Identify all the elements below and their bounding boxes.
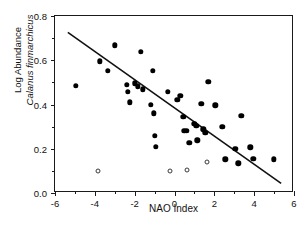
x-tick-minor bbox=[155, 191, 156, 194]
data-point-open bbox=[205, 160, 210, 165]
x-tick bbox=[55, 191, 56, 196]
data-point-filled bbox=[206, 79, 211, 84]
x-tick bbox=[254, 191, 255, 196]
x-tick-minor bbox=[115, 191, 116, 194]
data-point-filled bbox=[175, 97, 180, 102]
x-tick bbox=[95, 191, 96, 196]
figure-scatter-nao-calanus: Log Abundance Calanus finmarchicus 0.00.… bbox=[0, 0, 308, 234]
x-tick bbox=[135, 191, 136, 196]
x-tick bbox=[294, 191, 295, 196]
x-axis-title: NAO Index bbox=[54, 203, 293, 214]
data-point-filled bbox=[127, 100, 132, 105]
y-tick-label: 0.6 bbox=[34, 55, 47, 66]
data-point-filled bbox=[199, 101, 204, 106]
plot-area: 0.00.20.40.60.8 -6-4-20246 bbox=[54, 15, 293, 192]
data-point-filled bbox=[184, 128, 189, 133]
x-tick bbox=[175, 191, 176, 196]
data-point-filled bbox=[220, 124, 225, 129]
data-point-filled bbox=[203, 130, 208, 135]
x-tick bbox=[214, 191, 215, 196]
data-point-filled bbox=[150, 68, 155, 73]
data-point-filled bbox=[140, 87, 145, 92]
data-point-filled bbox=[153, 144, 158, 149]
data-point-filled bbox=[271, 157, 276, 162]
data-point-filled bbox=[151, 111, 156, 116]
data-point-filled bbox=[236, 160, 241, 165]
data-point-filled bbox=[247, 145, 252, 150]
data-point-filled bbox=[239, 113, 244, 118]
data-point-filled bbox=[112, 43, 117, 48]
data-point-filled bbox=[125, 89, 130, 94]
data-point-filled bbox=[73, 83, 78, 88]
data-point-filled bbox=[233, 146, 238, 151]
data-point-filled bbox=[213, 103, 218, 108]
data-point-filled bbox=[148, 102, 153, 107]
data-point-filled bbox=[105, 68, 110, 73]
y-axis-title-line1: Log Abundance bbox=[12, 27, 23, 93]
y-axis-title: Log Abundance Calanus finmarchicus bbox=[12, 0, 36, 120]
data-points bbox=[55, 16, 292, 191]
data-point-filled bbox=[195, 138, 200, 143]
data-point-open bbox=[95, 169, 100, 174]
data-point-filled bbox=[152, 133, 157, 138]
data-point-open bbox=[185, 167, 190, 172]
data-point-filled bbox=[138, 49, 143, 54]
data-point-filled bbox=[181, 114, 186, 119]
data-point-filled bbox=[194, 123, 199, 128]
y-tick-label: 0.8 bbox=[34, 11, 47, 22]
x-tick-minor bbox=[274, 191, 275, 194]
data-point-filled bbox=[178, 93, 183, 98]
data-point-filled bbox=[97, 59, 102, 64]
x-tick-minor bbox=[234, 191, 235, 194]
y-tick-label: 0.4 bbox=[34, 99, 47, 110]
data-point-filled bbox=[165, 89, 170, 94]
data-point-filled bbox=[124, 82, 129, 87]
y-tick-label: 0.0 bbox=[34, 188, 47, 199]
data-point-filled bbox=[223, 157, 228, 162]
x-tick-minor bbox=[75, 191, 76, 194]
data-point-filled bbox=[250, 156, 255, 161]
data-point-open bbox=[167, 169, 172, 174]
data-point-filled bbox=[187, 140, 192, 145]
x-tick-minor bbox=[194, 191, 195, 194]
y-tick-label: 0.2 bbox=[34, 143, 47, 154]
